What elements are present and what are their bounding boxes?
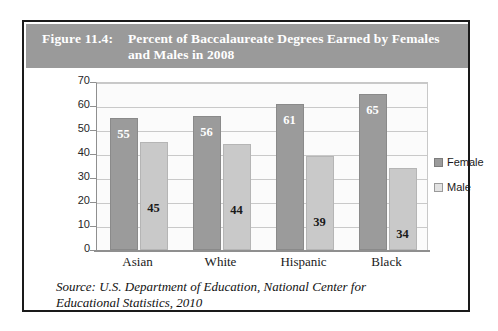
legend-label-male: Male <box>447 181 471 193</box>
bar-value-label: 61 <box>277 113 303 128</box>
figure-title: Percent of Baccalaureate Degrees Earned … <box>128 31 458 62</box>
x-axis-category-label: Asian <box>96 254 179 270</box>
bar-value-label: 44 <box>224 203 250 218</box>
x-axis-category-label: White <box>179 254 262 270</box>
legend-swatch-male-icon <box>434 183 443 192</box>
x-axis-category-label: Hispanic <box>262 254 345 270</box>
y-axis-tick-mark <box>90 130 96 131</box>
y-axis-tick-label: 30 <box>42 170 90 182</box>
y-axis-tick-mark <box>90 82 96 83</box>
bar-male-hispanic: 39 <box>306 156 334 250</box>
bar-value-label: 34 <box>390 227 416 242</box>
y-axis-tick-mark <box>90 250 96 251</box>
bar-value-label: 45 <box>141 201 167 216</box>
bar-female-asian: 55 <box>110 118 138 250</box>
y-axis-tick-label: 20 <box>42 194 90 206</box>
bar-male-asian: 45 <box>140 142 168 250</box>
plot-area: 5545564461396534 <box>96 82 428 250</box>
y-axis: 706050403020100 <box>26 82 90 250</box>
y-axis-tick-label: 50 <box>42 122 90 134</box>
legend-label-female: Female <box>447 156 484 168</box>
figure-container: Figure 11.4: Percent of Baccalaureate De… <box>22 20 470 312</box>
bar-value-label: 56 <box>194 125 220 140</box>
legend-swatch-female-icon <box>434 158 443 167</box>
bar-female-hispanic: 61 <box>276 104 304 250</box>
y-axis-tick-label: 0 <box>42 242 90 254</box>
y-axis-tick-label: 10 <box>42 218 90 230</box>
bar-value-label: 55 <box>111 127 137 142</box>
y-axis-tick-label: 60 <box>42 98 90 110</box>
legend-item-male: Male <box>434 181 494 193</box>
y-axis-tick-label: 40 <box>42 146 90 158</box>
figure-number: Figure 11.4: <box>42 31 113 47</box>
chart-region: 706050403020100 5545564461396534 Female … <box>26 68 468 268</box>
y-axis-tick-mark <box>90 178 96 179</box>
gridline <box>97 83 427 84</box>
bar-male-black: 34 <box>389 168 417 250</box>
x-axis-baseline <box>94 250 430 252</box>
bar-male-white: 44 <box>223 144 251 250</box>
y-axis-tick-label: 70 <box>42 74 90 86</box>
y-axis-tick-mark <box>90 202 96 203</box>
bar-female-white: 56 <box>193 116 221 250</box>
bar-value-label: 65 <box>360 103 386 118</box>
figure-title-bar: Figure 11.4: Percent of Baccalaureate De… <box>26 24 468 68</box>
source-note: Source: U.S. Department of Education, Na… <box>56 279 386 311</box>
chart-legend: Female Male <box>434 156 494 206</box>
y-axis-tick-mark <box>90 106 96 107</box>
legend-item-female: Female <box>434 156 494 168</box>
y-axis-tick-mark <box>90 154 96 155</box>
x-axis-category-label: Black <box>345 254 428 270</box>
y-axis-tick-mark <box>90 226 96 227</box>
bar-value-label: 39 <box>307 215 333 230</box>
bar-female-black: 65 <box>359 94 387 250</box>
